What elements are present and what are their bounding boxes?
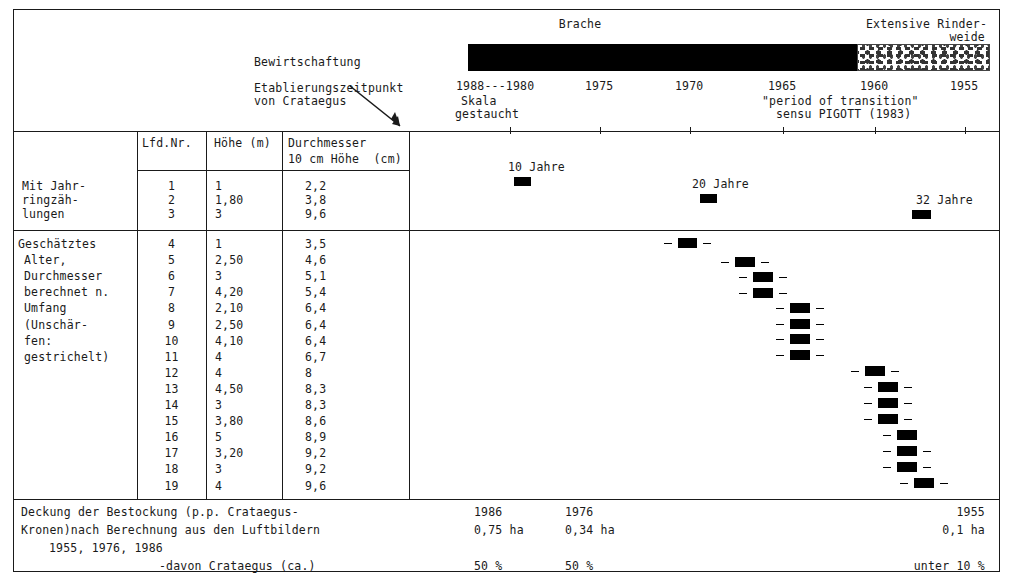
table-cell-nr: 4	[137, 238, 206, 252]
rule-col-diameter-left	[282, 131, 283, 499]
chart-uncertainty-dash-left	[883, 467, 891, 469]
rule-chart-left	[409, 131, 410, 499]
table-cell-diameter: 6,4	[305, 302, 326, 316]
axis-label-1970: 1970	[675, 80, 704, 94]
table-cell-height: 3	[215, 270, 222, 284]
rule-footer-top	[13, 499, 1000, 500]
table-cell-diameter: 8,3	[305, 383, 326, 397]
chart-bar	[700, 194, 717, 203]
label-bewirtschaftung: Bewirtschaftung	[254, 56, 361, 70]
band-label-brache: Brache	[490, 18, 670, 32]
chart-uncertainty-dash-left	[864, 419, 872, 421]
chart-uncertainty-dash-left	[664, 243, 672, 245]
table-cell-height: 2,10	[215, 302, 244, 316]
chart-uncertainty-dash-right	[779, 293, 787, 295]
table-cell-nr: 17	[137, 447, 206, 461]
table-cell-nr: 18	[137, 463, 206, 477]
group1-label-line1: Mit Jahr-	[22, 180, 86, 194]
group2-label-line: berechnet n.	[24, 286, 109, 300]
chart-uncertainty-dash-left	[864, 403, 872, 405]
chart-age-label: 20 Jahre	[692, 178, 749, 192]
chart-bar	[790, 319, 810, 329]
table-cell-height: 3,80	[215, 415, 244, 429]
chart-uncertainty-dash-right	[923, 467, 931, 469]
axis-label-1955: 1955	[950, 80, 979, 94]
chart-uncertainty-dash-right	[891, 371, 899, 373]
chart-uncertainty-dash-left	[739, 277, 747, 279]
chart-uncertainty-dash-right	[923, 451, 931, 453]
table-cell-nr: 9	[137, 319, 206, 333]
chart-bar	[912, 210, 931, 219]
axis-tick-1960	[875, 127, 876, 134]
note-transition-line2: sensu PIGOTT (1983)	[776, 108, 911, 122]
chart-uncertainty-dash-left	[864, 387, 872, 389]
table-cell-diameter: 3,8	[305, 194, 326, 208]
group2-label-line: fen:	[24, 335, 53, 349]
footer-pct-1986: 50 %	[474, 560, 503, 574]
chart-bar	[514, 177, 531, 186]
table-cell-diameter: 5,4	[305, 286, 326, 300]
table-cell-diameter: 9,2	[305, 463, 326, 477]
chart-bar	[790, 350, 810, 360]
chart-bar	[753, 288, 773, 298]
chart-bar	[897, 446, 917, 456]
table-cell-diameter: 6,7	[305, 351, 326, 365]
footer-text-line3: 1955, 1976, 1986	[49, 542, 163, 556]
table-cell-nr: 5	[137, 254, 206, 268]
table-cell-height: 1	[215, 238, 222, 252]
chart-uncertainty-dash-left	[721, 262, 729, 264]
chart-bar	[735, 257, 755, 267]
axis-label-1975: 1975	[585, 80, 614, 94]
band-fallow-bar	[468, 44, 857, 71]
chart-bar	[865, 366, 885, 376]
rule-col-height-left	[206, 131, 207, 499]
figure-root: Bewirtschaftung Etablierungszeitpunkt vo…	[0, 0, 1013, 582]
footer-year-1976: 1976	[565, 506, 594, 520]
table-cell-diameter: 9,6	[305, 480, 326, 494]
table-cell-height: 2,50	[215, 254, 244, 268]
table-cell-height: 4	[215, 351, 222, 365]
table-cell-nr: 8	[137, 302, 206, 316]
rule-group1-bottom	[13, 230, 1000, 231]
table-cell-diameter: 9,2	[305, 447, 326, 461]
footer-year-1986: 1986	[474, 506, 503, 520]
chart-uncertainty-dash-left	[883, 435, 891, 437]
chart-bar	[878, 414, 898, 424]
table-cell-diameter: 8,9	[305, 431, 326, 445]
table-cell-diameter: 6,4	[305, 335, 326, 349]
chart-uncertainty-dash-right	[904, 403, 912, 405]
table-cell-diameter: 3,5	[305, 238, 326, 252]
table-cell-height: 4,20	[215, 286, 244, 300]
label-etablierungszeitpunkt-line2: von Crataegus	[254, 95, 347, 109]
table-cell-nr: 1	[137, 180, 206, 194]
chart-bar	[897, 430, 917, 440]
chart-uncertainty-dash-right	[816, 355, 824, 357]
pointer-arrow-icon	[348, 74, 468, 139]
chart-uncertainty-dash-left	[739, 293, 747, 295]
col-header-diameter-line2: 10 cm Höhe (cm)	[288, 153, 402, 167]
table-cell-height: 2,50	[215, 319, 244, 333]
table-cell-height: 1,80	[215, 194, 244, 208]
chart-bar	[897, 462, 917, 472]
chart-uncertainty-dash-right	[816, 324, 824, 326]
table-cell-height: 4,10	[215, 335, 244, 349]
group2-label-line: Alter,	[24, 254, 67, 268]
footer-year-1955: 1955	[880, 506, 985, 520]
chart-bar	[878, 382, 898, 392]
chart-uncertainty-dash-right	[904, 387, 912, 389]
col-header-diameter-line1: Durchmesser	[288, 137, 366, 151]
table-cell-height: 3,20	[215, 447, 244, 461]
rule-colhead-bottom	[137, 170, 409, 171]
footer-text-line1: Deckung der Bestockung (p.p. Crataegus-	[21, 506, 299, 520]
axis-label-1965: 1965	[768, 80, 797, 94]
table-cell-height: 3	[215, 399, 222, 413]
axis-tick-1965	[783, 127, 784, 134]
rule-header-bottom	[13, 131, 1000, 132]
table-cell-nr: 13	[137, 383, 206, 397]
table-cell-height: 4	[215, 480, 222, 494]
chart-bar	[790, 334, 810, 344]
table-cell-height: 5	[215, 431, 222, 445]
chart-uncertainty-dash-right	[816, 339, 824, 341]
note-skala-line2: gestaucht	[455, 108, 519, 122]
table-cell-diameter: 8,3	[305, 399, 326, 413]
